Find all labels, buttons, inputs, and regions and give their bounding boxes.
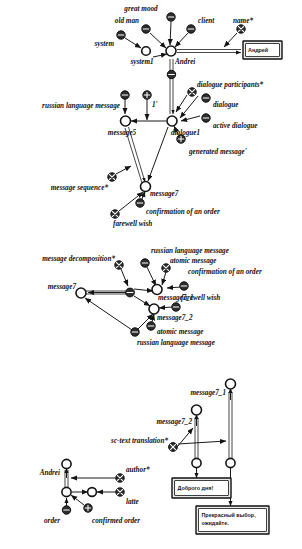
label-atomic-message-top: atomic message <box>170 257 217 265</box>
andrei-box-text: Андрей <box>248 47 268 53</box>
cross-circle-node[interactable] <box>108 173 116 181</box>
top-nodes <box>108 13 245 218</box>
cross-circle-node[interactable] <box>188 88 196 96</box>
edge-system-system1 <box>125 38 141 48</box>
minus-circle-node[interactable] <box>136 199 144 207</box>
label-message7: message7 <box>48 283 77 291</box>
middle-labels: russian language message atomic message … <box>42 247 262 347</box>
panel-middle: russian language message atomic message … <box>42 247 262 347</box>
minus-circle-node[interactable] <box>180 282 188 290</box>
label-author: author* <box>126 466 150 474</box>
edge-name-attr-pair <box>224 33 237 47</box>
open-circle-node[interactable] <box>167 116 177 126</box>
top-edges <box>116 22 241 211</box>
edge-old-man-andrei <box>150 33 166 48</box>
plus-circle-node[interactable] <box>143 91 151 99</box>
cross-circle-node[interactable] <box>116 474 124 482</box>
edge-atomic-msg-message7-1 <box>162 272 166 285</box>
open-circle-node[interactable] <box>62 459 71 468</box>
label-sc-text-translation: sc-text translation* <box>110 437 168 445</box>
greeting-text: Доброго дня! <box>178 485 214 491</box>
minus-circle-node[interactable] <box>172 303 180 311</box>
confirmation-text-line2: ожидайте. <box>202 520 230 526</box>
diagram-canvas: Андрей great mood old man client name* s… <box>0 0 302 549</box>
label-message7-1: message7_1 <box>190 389 226 397</box>
label-generated-message: generated message' <box>188 148 247 156</box>
confirmation-text-line1: Прекрасный выбор, <box>202 512 257 518</box>
label-dialogue1: dialogue1 <box>171 129 200 137</box>
open-circle-node[interactable] <box>166 46 176 56</box>
cross-circle-node[interactable] <box>111 210 119 218</box>
open-circle-node[interactable] <box>142 47 151 56</box>
minus-circle-node[interactable] <box>147 322 155 330</box>
edge-active-dialogue-dialogue1 <box>181 116 200 121</box>
plus-circle-node[interactable] <box>84 504 92 512</box>
edge-system1-andrei <box>153 54 167 57</box>
panel-top: Андрей great mood old man client name* s… <box>42 5 282 228</box>
edge-confirmed-order-node <box>71 495 84 505</box>
label-system1: system1 <box>129 58 153 66</box>
minus-circle-node[interactable] <box>131 328 139 336</box>
open-circle-node[interactable] <box>141 182 151 192</box>
edge-dlg-participants-dialogue1 <box>176 95 187 112</box>
cross-circle-node[interactable] <box>169 443 178 452</box>
cross-circle-node[interactable] <box>162 264 170 272</box>
label-confirmation-of-an-order: confirmation of an order <box>146 208 220 216</box>
minus-circle-node[interactable] <box>117 31 125 39</box>
edge-rus-msg-message7-1 <box>147 267 156 286</box>
minus-circle-node[interactable] <box>142 25 150 33</box>
open-circle-node[interactable] <box>76 288 86 298</box>
open-circle-node[interactable] <box>226 458 235 467</box>
cross-circle-node[interactable] <box>237 25 245 33</box>
label-atomic-message-bottom: atomic message <box>157 328 204 336</box>
andrei-name-box[interactable]: Андрей <box>243 41 282 59</box>
edge-dialogue-dialogue1 <box>180 96 198 118</box>
label-dialogue: dialogue <box>213 101 239 109</box>
edge-great-mood-andrei <box>170 22 171 45</box>
cross-circle-node[interactable] <box>115 261 123 269</box>
label-active-dialogue: active dialogue <box>213 122 258 130</box>
edge-farewell-message7-2 <box>159 307 172 308</box>
label-old-man: old man <box>115 17 139 25</box>
minus-circle-node[interactable] <box>126 288 135 297</box>
open-circle-node[interactable] <box>88 488 97 497</box>
cross-circle-node[interactable] <box>116 488 124 496</box>
open-circle-node[interactable] <box>62 487 71 496</box>
edge-rus-msg2-message7 <box>85 298 132 330</box>
label-message-sequence: message sequence* <box>51 184 109 192</box>
label-latte: latte <box>126 498 140 506</box>
label-order: order <box>44 517 60 525</box>
minus-circle-node[interactable] <box>167 70 175 78</box>
label-farewell-wish: farewell wish <box>181 294 220 302</box>
minus-circle-node[interactable] <box>202 114 210 122</box>
label-one-prime: 1' <box>152 101 158 109</box>
label-dialogue-participants: dialogue participants* <box>197 81 263 89</box>
edge-sc-translation-message7-1 <box>178 441 226 444</box>
edge-confirmation-message7-1 <box>167 287 181 288</box>
minus-circle-node[interactable] <box>141 259 149 267</box>
label-name-attr: name* <box>233 17 253 25</box>
top-labels: great mood old man client name* system s… <box>42 5 263 228</box>
label-message-decomposition: message decomposition* <box>42 255 115 263</box>
label-farewell-wish: farewell wish <box>113 220 152 228</box>
label-russian-language-message-bottom: russian language message <box>137 339 216 347</box>
greeting-text-box[interactable]: Доброго дня! <box>172 478 231 498</box>
open-circle-node[interactable] <box>149 304 159 314</box>
minus-circle-node[interactable] <box>121 91 129 99</box>
minus-circle-node[interactable] <box>62 506 70 514</box>
label-message7-2: message7_2 <box>156 418 192 426</box>
label-great-mood: great mood <box>123 5 158 13</box>
label-andrei: Andrei <box>39 469 60 477</box>
open-circle-node[interactable] <box>192 458 201 467</box>
open-circle-node[interactable] <box>192 405 202 415</box>
open-circle-node[interactable] <box>121 116 131 126</box>
edge-dec-message7-1 <box>134 289 153 291</box>
minus-circle-node[interactable] <box>187 25 195 33</box>
open-circle-node[interactable] <box>226 379 236 389</box>
minus-circle-node[interactable] <box>167 13 175 21</box>
label-system: system <box>93 40 114 48</box>
minus-circle-node[interactable] <box>202 94 210 102</box>
confirmation-text-box[interactable]: Прекрасный выбор, ожидайте. <box>196 506 269 534</box>
label-message5: message5 <box>108 129 137 137</box>
edge-message-sequence-pair <box>116 166 131 174</box>
